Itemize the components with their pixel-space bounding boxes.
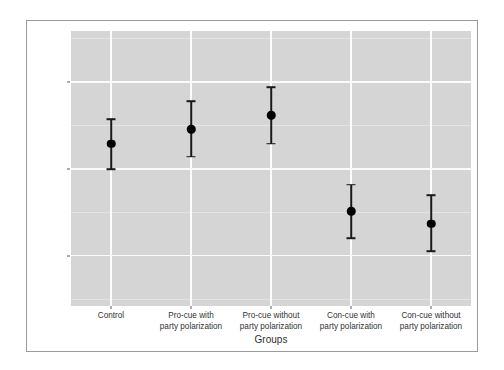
x-axis-title: Groups [71, 334, 471, 345]
errorbar-cap-lower [347, 238, 356, 240]
errorbar-cap-upper [347, 184, 356, 186]
y-tick-mark [67, 82, 70, 83]
gridline-major-vertical [270, 31, 272, 306]
errorbar-cap-lower [107, 168, 116, 170]
data-point-marker [427, 219, 436, 228]
errorbar-cap-upper [107, 119, 116, 121]
y-axis-title: Support for the DREAM act (7, stronger s… [27, 21, 71, 306]
x-tick-label: Con-cue withoutparty polarization [383, 311, 479, 332]
errorbar-cap-lower [267, 143, 276, 145]
x-tick-label-line: party polarization [383, 322, 479, 333]
x-tick-label-line: Con-cue without [383, 311, 479, 322]
errorbar-cap-upper [187, 100, 196, 102]
x-tick-mark [431, 306, 432, 309]
x-tick-mark [271, 306, 272, 309]
data-point-marker [187, 125, 196, 134]
errorbar-cap-lower [187, 156, 196, 158]
errorbar-cap-upper [267, 87, 276, 89]
x-tick-mark [191, 306, 192, 309]
x-tick-mark [351, 306, 352, 309]
y-tick-mark [67, 255, 70, 256]
chart-figure-frame: Support for the DREAM act (7, stronger s… [26, 20, 478, 352]
data-point-marker [347, 207, 356, 216]
data-point-marker [267, 111, 276, 120]
plot-panel [71, 31, 471, 306]
errorbar-cap-lower [427, 251, 436, 253]
data-point-marker [107, 140, 116, 149]
gridline-major-vertical [350, 31, 352, 306]
errorbar-cap-upper [427, 194, 436, 196]
gridline-major-vertical [190, 31, 192, 306]
x-tick-mark [111, 306, 112, 309]
gridline-major-vertical [430, 31, 432, 306]
y-tick-mark [67, 168, 70, 169]
